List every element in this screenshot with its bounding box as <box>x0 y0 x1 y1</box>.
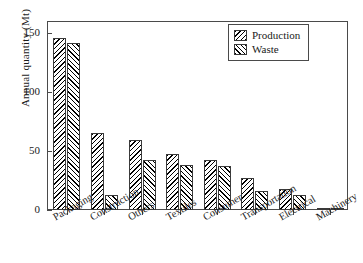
legend-item-waste: Waste <box>234 42 300 56</box>
bar-group <box>91 21 118 210</box>
legend-swatch-production-icon <box>234 30 247 41</box>
legend-swatch-waste-icon <box>234 44 247 55</box>
y-tick-mark <box>47 210 52 211</box>
bar-production <box>204 160 217 210</box>
bar-group <box>317 21 344 210</box>
bar-waste <box>67 43 80 210</box>
y-tick-label: 100 <box>0 86 46 97</box>
y-tick-label: 150 <box>0 27 46 38</box>
bar-group <box>204 21 231 210</box>
bar-chart-figure: Annual quantity (Mt) 050100150 Packaging… <box>0 0 363 263</box>
y-tick-label: 50 <box>0 145 46 156</box>
chart-legend: Production Waste <box>228 24 309 61</box>
legend-label-waste: Waste <box>252 44 279 55</box>
y-tick-label: 0 <box>0 204 46 215</box>
legend-label-production: Production <box>252 30 300 41</box>
legend-item-production: Production <box>234 28 300 42</box>
y-axis-title: Annual quantity (Mt) <box>19 0 31 143</box>
bar-production <box>166 154 179 210</box>
bar-group <box>166 21 193 210</box>
bar-group <box>129 21 156 210</box>
bar-production <box>53 38 66 210</box>
bar-group <box>53 21 80 210</box>
